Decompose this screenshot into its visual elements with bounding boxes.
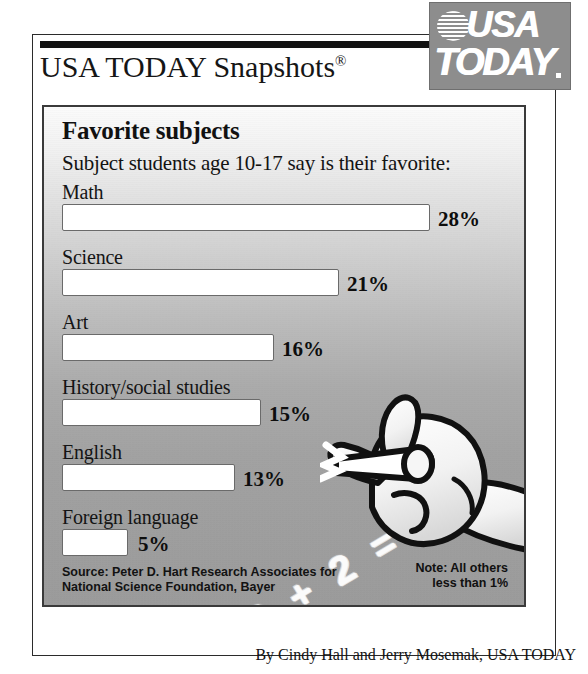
- bar-group: Foreign language 5%: [62, 506, 198, 556]
- bar-group: Science 21%: [62, 246, 123, 296]
- bar-value: 5%: [138, 532, 170, 557]
- source-note: Source: Peter D. Hart Research Associate…: [62, 565, 337, 595]
- bar-fill: [62, 269, 339, 296]
- logo-usa-text: USA: [466, 5, 539, 45]
- bar-fill: [62, 529, 128, 556]
- bar-row: 21%: [62, 269, 123, 296]
- bar-fill: [62, 464, 235, 491]
- bar-row: 13%: [62, 464, 122, 491]
- wordmark-text: USA TODAY Snapshots: [40, 50, 335, 83]
- bar-fill: [62, 399, 261, 426]
- note-line-1: Note: All others: [415, 561, 508, 576]
- chart-panel: Favorite subjects Subject students age 1…: [42, 105, 526, 607]
- bar-group: English 13%: [62, 441, 122, 491]
- bar-label: Math: [62, 181, 103, 203]
- source-line-1: Source: Peter D. Hart Research Associate…: [62, 565, 337, 580]
- bar-value: 21%: [347, 272, 389, 297]
- bar-row: 15%: [62, 399, 230, 426]
- usa-today-logo: USA TODAY: [430, 3, 570, 89]
- page-title: USA TODAY Snapshots®: [40, 50, 346, 84]
- bar-label: History/social studies: [62, 376, 230, 398]
- bar-group: Math 28%: [62, 181, 103, 231]
- bar-group: Art 16%: [62, 311, 88, 361]
- bar-fill: [62, 334, 274, 361]
- bar-value: 15%: [269, 402, 311, 427]
- bar-label: Science: [62, 246, 123, 268]
- bar-label: Foreign language: [62, 506, 198, 528]
- bar-label: English: [62, 441, 122, 463]
- byline: By Cindy Hall and Jerry Mosemak, USA TOD…: [255, 646, 576, 664]
- bar-fill: [62, 204, 430, 231]
- logo-today-text: TODAY: [434, 41, 554, 83]
- bar-group: History/social studies 15%: [62, 376, 230, 426]
- bar-chart: Math 28% Science 21% Art 16%: [44, 107, 524, 605]
- note-line-2: less than 1%: [415, 576, 508, 591]
- bar-row: 16%: [62, 334, 88, 361]
- bar-value: 28%: [438, 207, 480, 232]
- all-others-note: Note: All others less than 1%: [415, 561, 508, 591]
- bar-row: 28%: [62, 204, 103, 231]
- bar-row: 5%: [62, 529, 198, 556]
- bar-label: Art: [62, 311, 88, 333]
- registered-mark: ®: [335, 53, 346, 69]
- bar-value: 16%: [282, 337, 324, 362]
- logo-dot: [556, 73, 561, 78]
- snapshot-page: USA TODAY USA TODAY Snapshots® Favorite …: [0, 0, 588, 674]
- bar-value: 13%: [243, 467, 285, 492]
- source-line-2: National Science Foundation, Bayer: [62, 580, 337, 595]
